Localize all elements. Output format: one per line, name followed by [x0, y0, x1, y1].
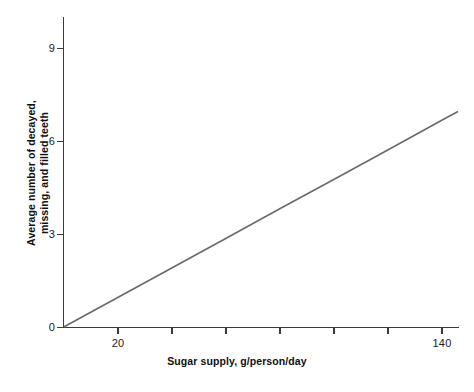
x-tick-40	[171, 327, 172, 334]
x-axis-line	[63, 327, 459, 328]
y-tick-3	[57, 234, 64, 235]
x-tick-label-20: 20	[98, 337, 138, 350]
plot-area	[0, 0, 474, 392]
y-axis-line	[63, 17, 64, 328]
x-tick-20	[117, 327, 118, 334]
chart-figure: 20 140 0 3 6 9 Sugar supply, g/person/da…	[0, 0, 474, 392]
y-axis-title: Average number of decayed, missing, and …	[25, 73, 51, 273]
y-tick-label-0: 0	[25, 321, 55, 333]
x-tick-60	[225, 327, 226, 334]
y-tick-label-9: 9	[25, 42, 55, 54]
x-tick-label-140: 140	[422, 337, 462, 350]
x-tick-120	[387, 327, 388, 334]
y-tick-9	[57, 48, 64, 49]
y-tick-6	[57, 141, 64, 142]
y-tick-0	[57, 327, 64, 328]
x-tick-100	[333, 327, 334, 334]
data-line-series-0	[64, 112, 458, 327]
x-tick-80	[279, 327, 280, 334]
x-tick-140	[441, 327, 442, 334]
y-axis-title-text: Average number of decayed, missing, and …	[25, 100, 50, 246]
x-axis-title: Sugar supply, g/person/day	[0, 355, 474, 367]
